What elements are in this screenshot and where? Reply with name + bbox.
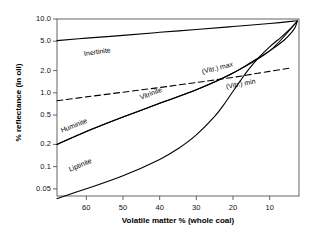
y-axis-title: % reflectance (in oil) [14,38,23,168]
x-tick-label-5: 10 [255,203,285,212]
curve-inertinite [57,21,297,41]
x-tick-label-0: 60 [71,203,101,212]
y-tick-label-7: 0.05 [11,184,51,193]
x-tick-label-1: 50 [108,203,138,212]
plot-border [57,19,299,196]
x-tick-label-3: 30 [181,203,211,212]
curve-vitr-min [57,68,292,101]
x-tick-label-2: 40 [145,203,175,212]
chart-figure: 10.05.02.01.00.50.20.10.05 605040302010 … [0,0,315,233]
axis-ticks [53,19,270,200]
data-curves [57,21,297,199]
y-tick-label-0: 10.0 [11,14,51,23]
curve-vitr-max [57,21,297,144]
x-tick-label-4: 20 [218,203,248,212]
plot-frame [57,19,299,196]
x-axis-title: Volatile matter % (whole coal) [57,216,299,225]
